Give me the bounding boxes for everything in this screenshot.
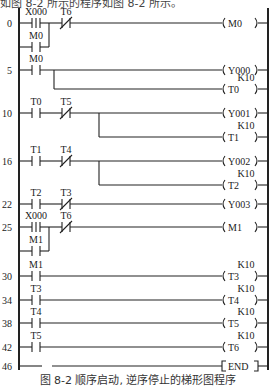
coil-label: T0: [228, 84, 239, 95]
contact-label: T6: [60, 6, 71, 17]
contact-label: T5: [30, 330, 41, 341]
figure-caption: 图 8-2 顺序启动, 逆序停止的梯形图程序: [0, 371, 276, 387]
step-number: 34: [2, 295, 12, 306]
contact-x000-pulse: [32, 222, 40, 232]
contact-label: T2: [30, 187, 41, 198]
contact-label: M0: [29, 53, 43, 64]
contact-label: M1: [29, 259, 43, 270]
timer-setting: K10: [237, 168, 254, 179]
contact-m0-no: [32, 65, 40, 75]
contact-x000-pulse: [32, 18, 40, 28]
step-number: 30: [2, 271, 12, 282]
contact-m0-no: [32, 42, 40, 52]
contact-label: T4: [60, 144, 71, 155]
coil-label: T4: [228, 295, 239, 306]
coil-label: Y002: [228, 156, 250, 167]
step-number: 42: [2, 342, 12, 353]
contact-label: M1: [29, 234, 43, 245]
contact-label: T1: [30, 144, 41, 155]
timer-setting: K10: [237, 72, 254, 83]
coil-label: T2: [228, 180, 239, 191]
timer-setting: K10: [237, 306, 254, 317]
contact-label: T4: [30, 306, 41, 317]
contact-label: T0: [30, 96, 41, 107]
coil-label: Y001: [228, 108, 250, 119]
contact-label: X000: [25, 210, 47, 221]
contact-label: T3: [30, 283, 41, 294]
contact-t0-no: [32, 108, 40, 118]
step-number: 5: [7, 65, 12, 76]
coil-label: T5: [228, 318, 239, 329]
step-number: 25: [2, 222, 12, 233]
timer-setting: K10: [237, 283, 254, 294]
contact-t1-no: [32, 156, 40, 166]
contact-label: T3: [60, 187, 71, 198]
step-number: 38: [2, 318, 12, 329]
contact-t5-no: [32, 342, 40, 352]
coil-label: M1: [228, 222, 242, 233]
step-number: 16: [2, 156, 12, 167]
coil-label: T3: [228, 271, 239, 282]
coil-label: T1: [228, 132, 239, 143]
coil-label: T6: [228, 342, 239, 353]
contact-m1-no: [32, 246, 40, 256]
timer-setting: K10: [237, 259, 254, 270]
timer-setting: K10: [237, 120, 254, 131]
coil-label: Y003: [228, 199, 250, 210]
contact-label: M0: [29, 30, 43, 41]
timer-setting: K10: [237, 330, 254, 341]
contact-t2-no: [32, 199, 40, 209]
contact-t4-no: [32, 318, 40, 328]
contact-m1-no: [32, 271, 40, 281]
step-number: 22: [2, 199, 12, 210]
contact-t3-no: [32, 295, 40, 305]
contact-label: T5: [60, 96, 71, 107]
contact-label: T6: [60, 210, 71, 221]
contact-label: X000: [25, 6, 47, 17]
step-number: 0: [7, 18, 12, 29]
coil-label: M0: [228, 18, 242, 29]
step-number: 10: [2, 108, 12, 119]
